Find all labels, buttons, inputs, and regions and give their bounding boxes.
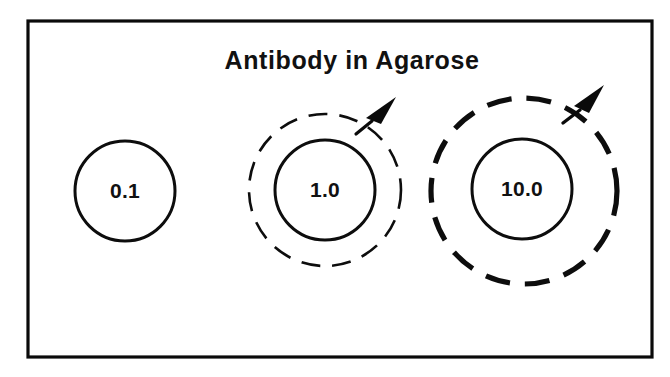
- well-label-1.0: 1.0: [310, 178, 340, 201]
- well-label-10.0: 10.0: [501, 177, 543, 200]
- figure-container: Antibody in Agarose 0.1 1.0 10.0: [0, 0, 670, 377]
- well-group-0.1: 0.1: [75, 141, 175, 241]
- well-label-0.1: 0.1: [110, 179, 140, 202]
- figure-title: Antibody in Agarose: [225, 46, 480, 74]
- antibody-agarose-diagram: Antibody in Agarose 0.1 1.0 10.0: [0, 0, 670, 377]
